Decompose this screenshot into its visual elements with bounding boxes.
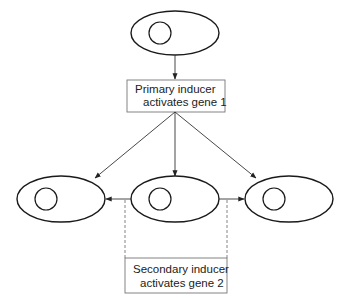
nucleus [149,188,171,210]
secondary-box-line1: Secondary inducer [133,263,229,275]
cell-body [131,11,219,55]
secondary-inducer-box: Secondary inducer activates gene 2 [125,258,229,293]
nucleus [263,188,285,210]
cell-body [17,176,105,222]
right-cell [245,176,333,222]
primary-inducer-box: Primary inducer activates gene 1 [127,80,227,112]
top-cell [131,11,219,55]
primary-box-line1: Primary inducer [135,83,216,95]
nucleus [35,188,57,210]
nucleus [149,22,171,44]
secondary-box-line2: activates gene 2 [140,277,224,289]
induction-diagram: Primary inducer activates gene 1 Seconda… [0,0,341,299]
middle-cell [131,176,219,222]
left-cell [17,176,105,222]
cell-body [131,176,219,222]
primary-box-line2: activates gene 1 [143,96,227,108]
arrow-to-left-cell [95,112,175,178]
cell-body [245,176,333,222]
arrow-to-right-cell [175,112,256,178]
